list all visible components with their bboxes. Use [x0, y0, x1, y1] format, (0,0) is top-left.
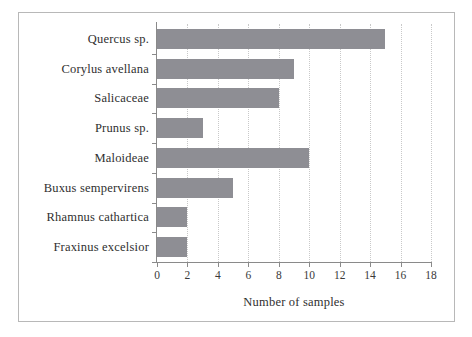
x-axis-tick-label: 12: [325, 269, 355, 282]
plot-area: [157, 24, 431, 262]
x-axis-tick-label: 2: [172, 269, 202, 282]
bar: [157, 237, 187, 257]
bar: [157, 118, 203, 138]
bar: [157, 148, 309, 168]
x-axis-tick: [431, 263, 432, 267]
category-label: Rhamnus cathartica: [22, 210, 149, 224]
x-axis-tick-label: 10: [294, 269, 324, 282]
y-axis-tick: [152, 113, 157, 114]
x-axis-tick-label: 16: [386, 269, 416, 282]
category-label: Salicaceae: [22, 91, 149, 105]
x-axis-tick: [157, 263, 158, 267]
category-label: Maloideae: [22, 151, 149, 165]
y-axis-tick: [152, 54, 157, 55]
y-axis-tick: [152, 84, 157, 85]
gridline: [309, 24, 310, 262]
category-axis: Quercus sp.Corylus avellanaSalicaceaePru…: [22, 24, 153, 262]
bar: [157, 88, 279, 108]
x-axis-tick: [340, 263, 341, 267]
x-axis-tick: [248, 263, 249, 267]
x-axis-tick: [187, 263, 188, 267]
y-axis-tick: [152, 262, 157, 263]
gridline: [340, 24, 341, 262]
y-axis-tick: [152, 232, 157, 233]
x-axis-tick: [279, 263, 280, 267]
x-axis-tick-label: 8: [264, 269, 294, 282]
x-axis-line: [156, 262, 432, 263]
gridline: [370, 24, 371, 262]
gridline: [431, 24, 432, 262]
x-axis-tick-label: 6: [233, 269, 263, 282]
x-axis-tick-label: 14: [355, 269, 385, 282]
x-axis-tick-label: 4: [203, 269, 233, 282]
x-axis-tick: [370, 263, 371, 267]
bar: [157, 178, 233, 198]
y-axis-tick: [152, 203, 157, 204]
category-label: Buxus sempervirens: [22, 181, 149, 195]
bar: [157, 59, 294, 79]
x-axis-tick-label: 18: [416, 269, 446, 282]
bar: [157, 207, 187, 227]
category-label: Prunus sp.: [22, 121, 149, 135]
y-axis-tick: [152, 143, 157, 144]
bar: [157, 29, 385, 49]
y-axis-tick: [152, 173, 157, 174]
x-axis-tick: [401, 263, 402, 267]
category-label: Corylus avellana: [22, 62, 149, 76]
category-label: Fraxinus excelsior: [22, 240, 149, 254]
category-label: Quercus sp.: [22, 32, 149, 46]
x-axis-tick: [218, 263, 219, 267]
x-axis-tick-label: 0: [142, 269, 172, 282]
x-axis-title: Number of samples: [157, 295, 431, 310]
gridline: [401, 24, 402, 262]
figure: Quercus sp.Corylus avellanaSalicaceaePru…: [0, 0, 472, 337]
x-axis-tick: [309, 263, 310, 267]
